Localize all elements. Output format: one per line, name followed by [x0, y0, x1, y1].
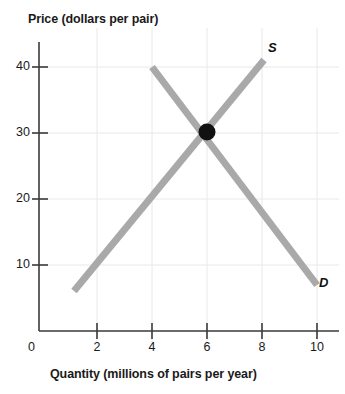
supply-demand-chart: Price (dollars per pair) — [0, 0, 345, 394]
y-axis-ticks — [32, 67, 48, 265]
origin-label: 0 — [28, 340, 35, 354]
x-tick-label-6: 6 — [197, 340, 217, 354]
x-tick-label-10: 10 — [307, 340, 327, 354]
y-tick-label-40: 40 — [4, 59, 30, 73]
equilibrium-point-marker — [199, 124, 216, 141]
y-tick-label-10: 10 — [4, 257, 30, 271]
gridlines — [39, 28, 339, 345]
x-tick-label-4: 4 — [142, 340, 162, 354]
y-tick-label-30: 30 — [4, 125, 30, 139]
x-axis-title: Quantity (millions of pairs per year) — [50, 367, 257, 381]
x-tick-label-8: 8 — [252, 340, 272, 354]
supply-curve-label: S — [268, 40, 277, 55]
x-tick-label-2: 2 — [87, 340, 107, 354]
plot-area — [0, 0, 345, 394]
y-tick-label-20: 20 — [4, 191, 30, 205]
demand-curve-label: D — [319, 275, 328, 290]
